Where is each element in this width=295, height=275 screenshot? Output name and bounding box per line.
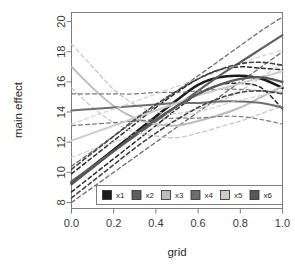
x-tick-label: 0.4 xyxy=(148,217,163,229)
legend-label-x4: x4 xyxy=(205,191,214,200)
y-tick-label: 10 xyxy=(56,166,68,178)
legend-swatch-x1 xyxy=(103,191,112,200)
x-axis-tick-labels: 0.00.20.40.60.81.0 xyxy=(64,217,290,229)
curve-x5-upper xyxy=(72,50,283,124)
x-tick-label: 1.0 xyxy=(275,217,290,229)
y-tick-label: 8 xyxy=(56,199,68,205)
y-axis-title: main effect xyxy=(12,81,24,138)
curve-x2-lower xyxy=(72,52,283,203)
legend-label-x2: x2 xyxy=(146,191,155,200)
y-tick-label: 20 xyxy=(56,15,68,27)
legend-swatch-x3 xyxy=(162,191,171,200)
legend-label-x6: x6 xyxy=(264,191,273,200)
legend-swatch-x4 xyxy=(191,191,200,200)
x-axis-title: grid xyxy=(167,246,186,258)
main-effect-plot: 8101214161820 0.00.20.40.60.81.0 main ef… xyxy=(0,0,295,275)
y-tick-label: 12 xyxy=(56,136,68,148)
data-curves xyxy=(72,17,283,202)
x-tick-label: 0.2 xyxy=(106,217,121,229)
y-tick-label: 18 xyxy=(56,46,68,58)
chart-figure: 8101214161820 0.00.20.40.60.81.0 main ef… xyxy=(0,0,295,275)
x-tick-label: 0.6 xyxy=(190,217,205,229)
plot-frame xyxy=(72,13,283,209)
legend-label-x3: x3 xyxy=(175,191,184,200)
x-tick-label: 0.8 xyxy=(233,217,248,229)
x-axis-ticks xyxy=(72,209,283,214)
chart-legend[interactable]: x1x2x3x4x5x6 xyxy=(97,186,283,205)
legend-swatch-x6 xyxy=(250,191,259,200)
x-tick-label: 0.0 xyxy=(64,217,79,229)
legend-label-x1: x1 xyxy=(116,191,125,200)
legend-label-x5: x5 xyxy=(234,191,243,200)
y-tick-label: 16 xyxy=(56,76,68,88)
legend-swatch-x5 xyxy=(221,191,230,200)
y-axis-tick-labels: 8101214161820 xyxy=(56,15,68,205)
y-tick-label: 14 xyxy=(56,106,68,118)
legend-swatch-x2 xyxy=(132,191,141,200)
